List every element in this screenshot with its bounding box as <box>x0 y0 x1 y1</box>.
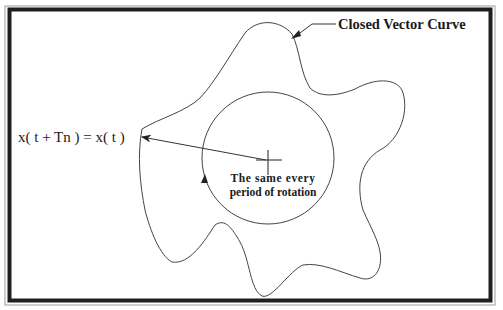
rotation-arrow-icon <box>201 174 208 183</box>
curve-label: Closed Vector Curve <box>338 16 466 32</box>
closed-vector-curve <box>139 23 404 297</box>
equation-label: x( t + Tn ) = x( t ) <box>18 129 125 146</box>
frame-border <box>5 6 495 305</box>
closed-vector-curve-diagram: Closed Vector Curve x( t + Tn ) = x( t )… <box>0 0 503 310</box>
curve-label-leader <box>296 24 336 36</box>
center-label-line1: The same every <box>230 172 315 185</box>
center-label-line2: period of rotation <box>230 186 317 199</box>
